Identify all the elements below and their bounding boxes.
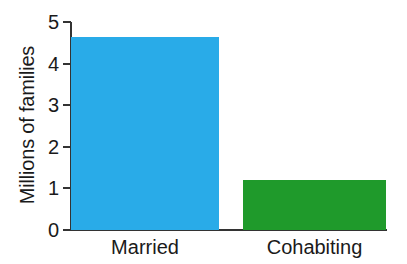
y-axis-title: Millions of families (14, 20, 40, 230)
y-tick-mark-1 (63, 187, 71, 189)
y-tick-mark-5 (63, 21, 71, 23)
y-tick-label-3: 3 (19, 95, 59, 115)
y-tick-mark-3 (63, 104, 71, 106)
y-tick-mark-0 (63, 229, 71, 231)
y-tick-label-1: 1 (19, 178, 59, 198)
y-tick-label-4: 4 (19, 54, 59, 74)
y-tick-mark-4 (63, 63, 71, 65)
bar-married (71, 37, 219, 230)
bar-chart: Millions of families 543210 MarriedCohab… (0, 0, 407, 264)
y-tick-mark-2 (63, 146, 71, 148)
y-tick-label-2: 2 (19, 137, 59, 157)
category-label-cohabiting: Cohabiting (213, 235, 407, 259)
y-tick-label-5: 5 (19, 12, 59, 32)
bar-cohabiting (243, 180, 386, 230)
